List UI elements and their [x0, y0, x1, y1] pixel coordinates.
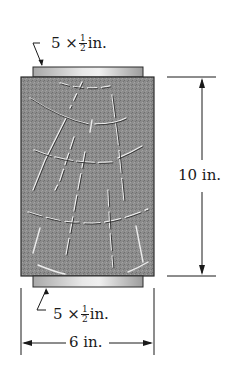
arrow-right-icon	[143, 340, 153, 346]
arrow-left-icon	[22, 340, 32, 346]
concrete-block	[21, 77, 154, 276]
height-label: 10 in.	[178, 168, 221, 183]
times-sign: ×	[67, 305, 80, 323]
arrow-down-icon	[199, 265, 205, 275]
unit: in.	[88, 34, 107, 52]
arrow-up-icon	[199, 78, 205, 88]
bottom-plate-whole: 5	[53, 305, 63, 323]
bottom-bearing-plate	[33, 276, 143, 287]
width-label: 6 in.	[69, 335, 103, 350]
times-sign: ×	[65, 34, 78, 52]
top-bearing-plate	[33, 67, 143, 77]
top-plate-label: 5 ×12in.	[51, 34, 107, 53]
unit: in.	[90, 305, 109, 323]
arrow-head-icon	[44, 288, 49, 295]
fraction: 12	[81, 305, 89, 324]
diagram-canvas	[0, 0, 247, 382]
bottom-plate-label: 5 ×12in.	[53, 305, 109, 324]
arrow-head-icon	[39, 60, 44, 67]
fraction: 12	[79, 34, 87, 53]
top-plate-whole: 5	[51, 34, 61, 52]
